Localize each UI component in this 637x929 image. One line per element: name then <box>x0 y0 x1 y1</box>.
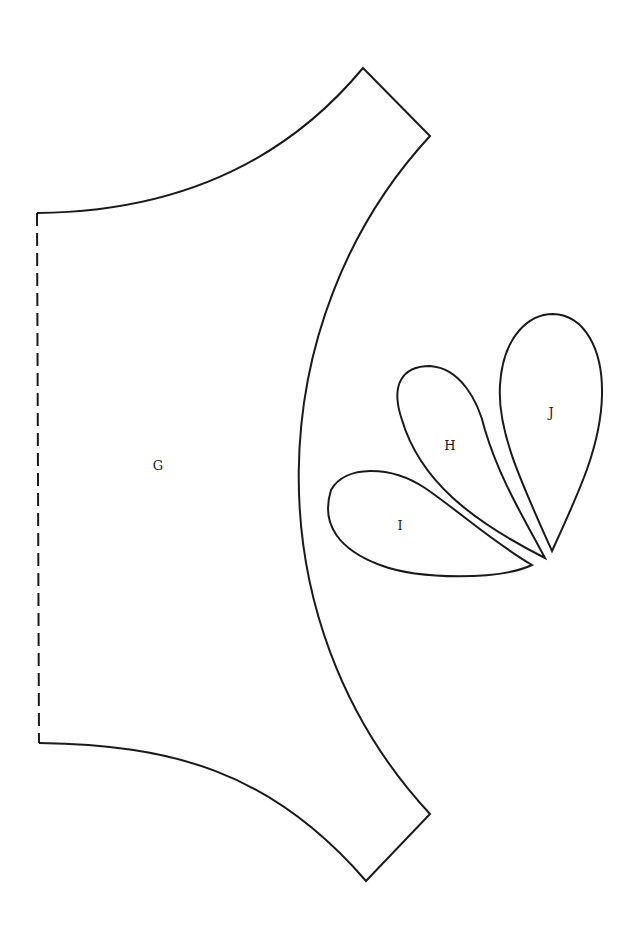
piece-i-label: H <box>444 438 455 453</box>
piece-j: J <box>500 314 602 551</box>
piece-g-label: G <box>153 458 163 473</box>
pattern-canvas: G J H I <box>0 0 637 929</box>
piece-g: G <box>37 68 430 881</box>
piece-h-outline <box>328 471 532 576</box>
piece-i: H <box>397 366 545 558</box>
piece-h-label: I <box>397 518 402 533</box>
fold-line <box>37 213 39 743</box>
piece-h: I <box>328 471 532 576</box>
piece-j-outline <box>500 314 602 551</box>
piece-j-label: J <box>546 405 553 420</box>
piece-i-outline <box>397 366 545 558</box>
piece-g-outline <box>37 68 430 881</box>
